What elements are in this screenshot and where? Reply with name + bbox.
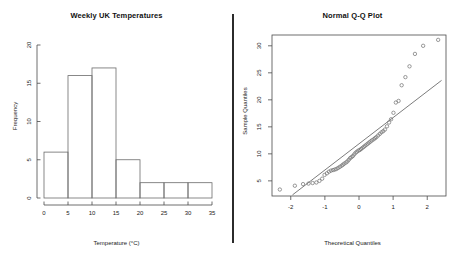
qqplot-y-tick-label: 20 [256, 96, 262, 103]
histogram-bar [140, 183, 164, 198]
histogram-panel: Weekly UK Temperatures 05101520051015202… [0, 0, 233, 255]
qqplot-y-axis-label: Sample Quantiles [242, 51, 248, 171]
qqplot-point [404, 75, 407, 78]
qqplot-point [385, 125, 388, 128]
qqplot-plot-area: 51015202530-2-1012 [234, 0, 471, 255]
histogram-y-axis-label: Frequency [12, 56, 18, 176]
qqplot-y-tick-label: 5 [256, 179, 262, 183]
qqplot-panel: Normal Q-Q Plot 51015202530-2-1012 Theor… [234, 0, 471, 255]
qqplot-point [301, 182, 304, 185]
histogram-plot-area: 0510152005101520253035 [0, 0, 233, 255]
histogram-x-tick-label: 25 [161, 210, 168, 216]
qqplot-points [278, 38, 440, 191]
histogram-y-tick-label: 10 [26, 118, 32, 125]
qqplot-point [293, 184, 296, 187]
qqplot-x-tick-label: 2 [426, 204, 430, 210]
qqplot-point [311, 181, 314, 184]
figure-canvas: Weekly UK Temperatures 05101520051015202… [0, 0, 471, 255]
histogram-x-tick-label: 20 [137, 210, 144, 216]
qqplot-reference-line [292, 80, 441, 195]
qqplot-point [392, 111, 395, 114]
histogram-y-tick-label: 0 [26, 196, 32, 200]
qqplot-y-tick-label: 10 [256, 150, 262, 157]
qqplot-point [436, 38, 439, 41]
histogram-y-tick-label: 5 [26, 157, 32, 161]
qqplot-frame [272, 35, 446, 196]
histogram-bar [68, 76, 92, 198]
panel-divider [232, 14, 234, 243]
qqplot-y-tick-label: 25 [256, 69, 262, 76]
histogram-x-tick-label: 10 [89, 210, 96, 216]
qqplot-point [408, 65, 411, 68]
histogram-bar [44, 152, 68, 198]
histogram-x-tick-label: 15 [113, 210, 120, 216]
qqplot-x-tick-label: 1 [391, 204, 395, 210]
histogram-x-axis-label: Temperature (°C) [0, 240, 233, 246]
qqplot-y-tick-label: 15 [256, 123, 262, 130]
qqplot-point [400, 84, 403, 87]
histogram-x-tick-label: 30 [185, 210, 192, 216]
qqplot-point [397, 99, 400, 102]
qqplot-point [320, 177, 323, 180]
histogram-bars [44, 68, 212, 198]
qqplot-point [387, 121, 390, 124]
qqplot-y-tick-label: 30 [256, 42, 262, 49]
histogram-y-tick-label: 15 [26, 79, 32, 86]
histogram-x-tick-label: 5 [66, 210, 70, 216]
histogram-y-tick-label: 20 [26, 41, 32, 48]
qqplot-point [413, 52, 416, 55]
qqplot-x-tick-label: -1 [322, 204, 328, 210]
qqplot-x-tick-label: 0 [357, 204, 361, 210]
histogram-x-tick-label: 0 [42, 210, 46, 216]
qqplot-x-axis-label: Theoretical Quantiles [234, 240, 471, 246]
qqplot-x-tick-label: -2 [288, 204, 294, 210]
qqplot-point [421, 44, 424, 47]
qqplot-point [278, 188, 281, 191]
histogram-bar [116, 160, 140, 198]
histogram-bar [188, 183, 212, 198]
histogram-bar [92, 68, 116, 198]
histogram-bar [164, 183, 188, 198]
histogram-x-tick-label: 35 [209, 210, 216, 216]
